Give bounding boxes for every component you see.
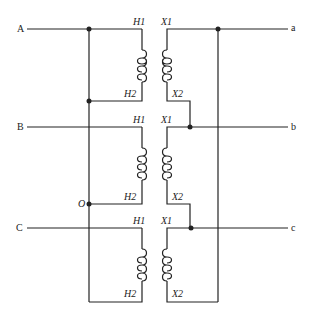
circuit-wires	[0, 0, 312, 322]
t1-x2-label: X2	[172, 89, 183, 99]
neutral-label: O	[78, 199, 85, 209]
primary-coil-2	[138, 148, 147, 180]
terminal-b-label: b	[291, 122, 296, 132]
secondary-coil-1	[163, 50, 172, 82]
t3-x1-label: X1	[161, 216, 172, 226]
t1-x1-label: X1	[161, 17, 172, 27]
t2-x2-label: X2	[172, 192, 183, 202]
junction-dot	[188, 125, 193, 130]
junction-dot	[189, 226, 194, 231]
primary-coil-3	[138, 249, 147, 281]
primary-coil-1	[138, 50, 147, 82]
junction-dot	[216, 27, 221, 32]
t2-h2-label: H2	[124, 192, 136, 202]
transformer-diagram: A B C a b c O H1 H2 X1 X2 H1 H2 X1 X2 H1…	[0, 0, 312, 322]
terminal-B-label: B	[17, 122, 24, 132]
secondary-winding-3-leads	[167, 228, 288, 302]
terminal-a-label: a	[291, 23, 295, 33]
secondary-coil-2	[163, 148, 172, 180]
terminal-C-label: C	[16, 223, 23, 233]
neutral-junction-dot	[87, 202, 92, 207]
terminal-A-label: A	[17, 24, 24, 34]
t2-h1-label: H1	[133, 115, 145, 125]
t3-x2-label: X2	[172, 289, 183, 299]
junction-dot	[87, 27, 92, 32]
secondary-winding-1-leads	[167, 29, 288, 127]
secondary-winding-2-leads	[167, 127, 288, 228]
t3-h2-label: H2	[124, 289, 136, 299]
t2-x1-label: X1	[161, 115, 172, 125]
t3-h1-label: H1	[133, 216, 145, 226]
terminal-c-label: c	[291, 223, 295, 233]
junction-dot	[87, 99, 92, 104]
t1-h1-label: H1	[133, 17, 145, 27]
t1-h2-label: H2	[124, 89, 136, 99]
secondary-coil-3	[163, 249, 172, 281]
